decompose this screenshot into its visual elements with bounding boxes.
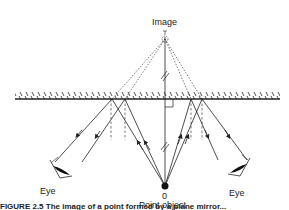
mirror-image-diagram: Image 0 Point object Eye Eye FIGURE 2.5 …	[0, 0, 289, 210]
reflected-rays	[55, 99, 247, 162]
figure-caption: FIGURE 2.5 The image of a point formed b…	[0, 202, 226, 210]
eye-left-icon	[50, 157, 72, 178]
plane-mirror	[15, 92, 280, 99]
eye-right-icon	[228, 155, 250, 176]
eye-left-label: Eye	[40, 186, 56, 196]
normal-line	[161, 37, 173, 186]
diagram-svg	[0, 0, 289, 210]
point-object-dot	[162, 183, 169, 190]
incident-rays	[112, 99, 202, 186]
eye-right-label: Eye	[229, 188, 245, 198]
virtual-rays	[112, 39, 202, 99]
image-label: Image	[152, 17, 177, 27]
